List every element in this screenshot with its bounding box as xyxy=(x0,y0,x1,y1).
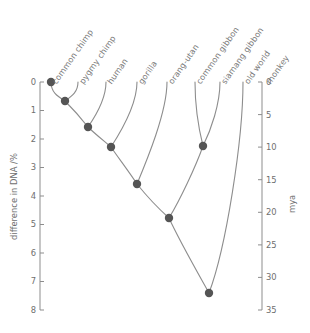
left-tick-label-8: 8 xyxy=(24,305,36,315)
branch-chimp-human-split-up xyxy=(88,127,111,147)
node-gibbon-split xyxy=(199,142,207,150)
branch-chimp-split-up xyxy=(65,101,88,127)
branch-orang-utan-split-up xyxy=(137,184,169,218)
left-tick-label-2: 2 xyxy=(24,134,36,144)
right-tick-label-35: 35 xyxy=(266,305,277,315)
branch-orang-utan xyxy=(137,82,167,184)
left-tick-label-1: 1 xyxy=(24,105,36,115)
right-tick-label-0: 0 xyxy=(266,77,271,87)
left-axis-title: difference in DNA /% xyxy=(9,153,19,240)
node-old-world-monkey-split xyxy=(205,289,213,297)
left-tick-label-5: 5 xyxy=(24,219,36,229)
right-axis-title: mya xyxy=(287,195,297,213)
phylogenetic-tree-figure: common chimp pygmy chimp human gorilla o… xyxy=(0,0,310,333)
branch-human xyxy=(88,82,106,127)
branch-great-ape-gibbon-split-down xyxy=(169,218,209,293)
branch-siamang-gibbon xyxy=(203,82,220,146)
branch-old-world-monkey xyxy=(209,82,243,293)
branch-gorilla xyxy=(111,82,137,147)
node-chimp-split xyxy=(61,97,69,105)
node-chimp-human-split xyxy=(84,123,92,131)
left-tick-label-3: 3 xyxy=(24,162,36,172)
tree-branches xyxy=(51,82,243,293)
left-tick-label-7: 7 xyxy=(24,276,36,286)
right-axis xyxy=(258,82,262,310)
branch-common-gibbon xyxy=(195,82,203,146)
left-tick-label-4: 4 xyxy=(24,191,36,201)
left-axis xyxy=(40,82,44,310)
branch-gibbon-split-down xyxy=(169,146,203,218)
left-tick-label-6: 6 xyxy=(24,248,36,258)
right-tick-label-5: 5 xyxy=(266,110,271,120)
right-tick-label-25: 25 xyxy=(266,240,277,250)
left-tick-label-0: 0 xyxy=(24,77,36,87)
node-gorilla-split xyxy=(107,143,115,151)
right-tick-label-20: 20 xyxy=(266,207,277,217)
right-tick-label-15: 15 xyxy=(266,175,277,185)
right-tick-label-30: 30 xyxy=(266,272,277,282)
node-great-ape-gibbon-split xyxy=(165,214,173,222)
branch-gorilla-split-up xyxy=(111,147,137,184)
node-orang-utan-split xyxy=(133,180,141,188)
right-tick-label-10: 10 xyxy=(266,142,277,152)
